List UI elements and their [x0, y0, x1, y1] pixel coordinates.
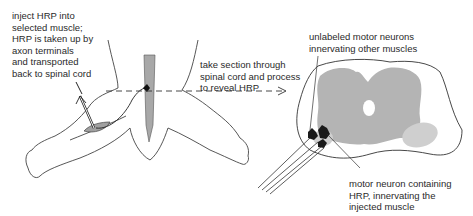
- central-canal: [363, 100, 375, 116]
- inject-label: inject HRP into selected muscle; HRP is …: [12, 10, 93, 79]
- section-label: take section through spinal cord and pro…: [200, 59, 300, 94]
- spinal-cord: [144, 55, 155, 142]
- labeled-neuron-label: motor neuron containing HRP, innervating…: [349, 178, 451, 213]
- syringe-icon: [76, 82, 94, 128]
- unlabeled-neurons-label: unlabeled motor neurons innervating othe…: [309, 31, 417, 54]
